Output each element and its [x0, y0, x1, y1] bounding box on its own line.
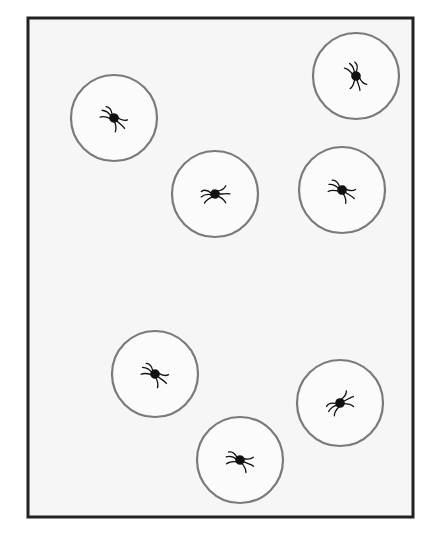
spider-circle — [172, 151, 258, 237]
spider-circle — [71, 75, 157, 161]
spider-circle — [197, 417, 283, 503]
spider-circle — [297, 360, 383, 446]
spider-circle — [313, 33, 399, 119]
spider-circle — [299, 147, 385, 233]
spider-diagram — [0, 0, 440, 541]
spider-circle — [112, 331, 198, 417]
